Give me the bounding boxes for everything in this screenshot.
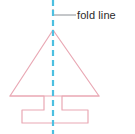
triangle-canopy-shape (10, 30, 99, 96)
leader-line-path (53, 9, 76, 15)
trunk-base-shape (10, 96, 99, 123)
annotation-leader (53, 9, 76, 15)
fold-line-figure: fold line (0, 0, 135, 134)
fold-line-label: fold line (77, 9, 116, 22)
